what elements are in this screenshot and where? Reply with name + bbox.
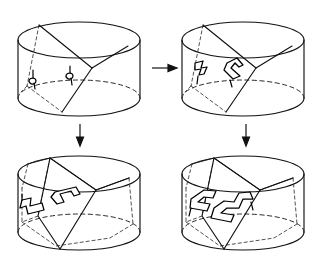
surface-edge-top-left: [39, 25, 92, 68]
cylinder-bottom-back: [182, 80, 304, 98]
prism-bottom-chain: [186, 222, 297, 246]
arrow-down-right: [238, 122, 254, 148]
prism-strut-c: [293, 178, 297, 224]
cylinder-bottom-front: [182, 232, 304, 250]
cylinder-outline: [18, 22, 140, 116]
marking-knot-step-lower: [211, 192, 253, 222]
marking-bar-clasp-right: [51, 187, 80, 204]
surface-edge-top-right: [260, 178, 293, 190]
arrow-down-left: [72, 122, 88, 148]
surface-edge-top-right: [96, 178, 129, 190]
panel-top-right: [164, 8, 320, 128]
prism-strut-a: [22, 164, 28, 188]
interior-prism: [22, 158, 133, 246]
prism-top-edge-chain: [28, 158, 129, 190]
cylinder-bottom-front: [18, 98, 140, 116]
prism-strut-a: [186, 164, 192, 188]
prism-strut-c: [129, 178, 133, 224]
cylinder-bottom-back: [18, 80, 140, 98]
marking-clasp-small-right: [66, 66, 73, 85]
surface-edge-top-left: [50, 158, 96, 190]
cylinder-bottom-front: [18, 232, 140, 250]
surface-edge-hidden-bottom: [191, 86, 226, 112]
surface-edge-front: [60, 190, 96, 249]
panel-bottom-left: [0, 142, 160, 267]
figure-root: [0, 0, 320, 267]
interior-diagonal-surface: [21, 25, 128, 112]
surface-edge-hidden-bottom: [27, 86, 62, 112]
prism-bottom-chain: [22, 222, 133, 246]
surface-edge-hidden-left: [191, 25, 203, 86]
cylinder-bottom-front: [182, 98, 304, 116]
cylinder-outline: [18, 156, 140, 250]
prism-top-edge-chain: [192, 158, 293, 190]
marking-bar-clasp-left: [20, 194, 44, 214]
surface-edge-top-left: [214, 158, 260, 190]
surface-edge-hidden-tick: [185, 86, 191, 92]
marking-chevron-band-right: [224, 58, 243, 87]
panel-bottom-right: [164, 142, 320, 267]
arrow-right-top: [150, 60, 180, 76]
marking-zigzag-band-left: [195, 61, 207, 84]
panel-top-left: [0, 8, 160, 128]
surface-edge-hidden-tick: [21, 86, 27, 92]
